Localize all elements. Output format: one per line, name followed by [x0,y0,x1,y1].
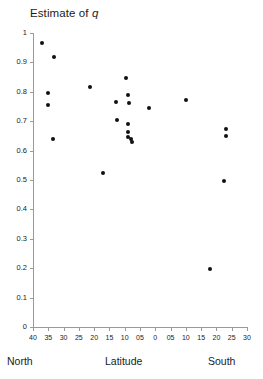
data-point [126,130,130,134]
y-tick-label: 0 [5,323,27,331]
x-tick-mark [216,328,217,331]
y-tick-mark [30,239,33,240]
y-tick-mark [30,180,33,181]
x-tick-mark [201,328,202,331]
y-tick-mark [30,298,33,299]
x-tick-mark [48,328,49,331]
y-tick-mark [30,92,33,93]
data-point [101,171,105,175]
scatter-plot-figure: Estimate of q 10.90.80.70.60.50.40.30.20… [0,0,263,379]
data-point [184,98,188,102]
y-axis-line [33,33,34,328]
data-point [51,137,55,141]
y-tick-label: 0.1 [5,294,27,302]
data-point [222,179,226,183]
x-tick-mark [33,328,34,331]
y-tick-label: 0.4 [5,205,27,213]
x-tick-mark [64,328,65,331]
y-tick-label: 0.8 [5,88,27,96]
axis-label-north: North [7,355,33,367]
x-tick-mark [247,328,248,331]
x-tick-mark [94,328,95,331]
plot-area: 10.90.80.70.60.50.40.30.20.10 4035302520… [0,0,263,379]
data-point [147,106,151,110]
y-tick-mark [30,62,33,63]
data-point [126,93,130,97]
y-tick-label: 0.2 [5,264,27,272]
data-point [130,140,134,144]
data-point [224,134,228,138]
data-point [114,100,118,104]
y-tick-label: 0.7 [5,117,27,125]
x-tick-mark [125,328,126,331]
x-tick-mark [79,328,80,331]
y-tick-mark [30,151,33,152]
y-tick-label: 1 [5,29,27,37]
x-axis-label: Latitude [105,355,142,367]
x-tick-mark [140,328,141,331]
data-point [40,41,44,45]
axis-label-south: South [208,355,235,367]
y-tick-label: 0.9 [5,58,27,66]
data-point [46,103,50,107]
data-point [52,55,56,59]
data-point [224,127,228,131]
data-point [124,76,128,80]
x-tick-mark [155,328,156,331]
data-point [88,85,92,89]
data-point [115,118,119,122]
x-tick-mark [186,328,187,331]
y-tick-label: 0.6 [5,147,27,155]
x-tick-mark [232,328,233,331]
data-point [126,122,130,126]
x-tick-mark [171,328,172,331]
data-point [127,101,131,105]
data-point [46,91,50,95]
data-point [208,267,212,271]
y-tick-label: 0.3 [5,235,27,243]
x-tick-label: 30 [238,334,256,342]
y-tick-mark [30,209,33,210]
y-tick-mark [30,268,33,269]
x-tick-mark [109,328,110,331]
y-tick-mark [30,121,33,122]
y-tick-mark [30,33,33,34]
y-tick-label: 0.5 [5,176,27,184]
